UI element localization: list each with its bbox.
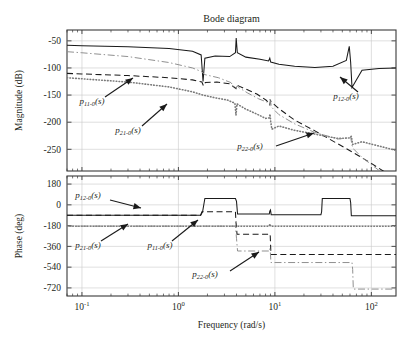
- bode-plot-svg: -50-100-150-200-2501800-180-360-540-7201…: [0, 0, 418, 341]
- phase-ytick-label: -720: [44, 283, 62, 293]
- phase-label-p12: p12-0(s): [74, 190, 100, 201]
- x-tick-label: 101: [268, 300, 281, 312]
- mag-ytick-label: -50: [48, 36, 61, 46]
- mag-arrow-p22-head: [306, 132, 314, 138]
- phase-ytick-label: 180: [47, 179, 62, 189]
- phase-y-axis-label: Phase (deg): [14, 214, 25, 259]
- mag-ytick-label: -150: [44, 90, 62, 100]
- x-tick-label: 10-1: [74, 300, 89, 312]
- chart-title: Bode diagram: [203, 13, 260, 24]
- phase-frame: [67, 176, 396, 296]
- x-tick-label: 102: [365, 300, 378, 312]
- mag-ytick-label: -200: [44, 117, 62, 127]
- phase-ytick-label: -180: [44, 221, 62, 231]
- mag-ytick-label: -250: [44, 145, 62, 155]
- phase-label-p22: p22-0(s): [191, 269, 217, 280]
- phase-arrow-p21-head: [120, 224, 128, 231]
- mag-curve-p22-0(s): [67, 52, 396, 179]
- phase-ytick-label: 0: [56, 200, 61, 210]
- phase-arrow-p22-head: [251, 252, 259, 259]
- mag-label-p12: p12-0(s): [332, 91, 358, 102]
- phase-label-p21: p21-0(s): [74, 240, 100, 251]
- mag-arrow-p11-head: [125, 78, 133, 85]
- phase-label-p11: p11-0(s): [147, 240, 173, 251]
- phase-curve-p22-0(s): [67, 226, 396, 289]
- phase-ytick-label: -360: [44, 242, 62, 252]
- bode-figure: -50-100-150-200-2501800-180-360-540-7201…: [0, 0, 418, 341]
- mag-label-p22: p22-0(s): [236, 141, 262, 152]
- mag-ytick-label: -100: [44, 63, 62, 73]
- x-tick-label: 100: [172, 300, 186, 312]
- x-axis-label: Frequency (rad/s): [198, 320, 265, 331]
- mag-label-p21: p21-0(s): [114, 125, 140, 136]
- phase-ytick-label: -540: [44, 262, 62, 272]
- phase-curve-p11-0(s): [67, 212, 396, 255]
- mag-curve-p21-0(s): [67, 78, 396, 151]
- mag-y-axis-label: Magnitude (dB): [14, 70, 25, 131]
- mag-label-p11: p11-0(s): [79, 96, 105, 107]
